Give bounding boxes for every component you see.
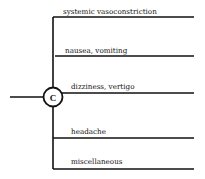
branch-systemic-vasoconstriction: systemic vasoconstriction: [53, 7, 194, 17]
branch-headache: headache: [53, 127, 194, 138]
branch-miscellaneous: miscellaneous: [53, 157, 194, 169]
branch-dizziness-vertigo: dizziness, vertigo: [60, 82, 194, 93]
branch-label: headache: [71, 127, 106, 136]
branch-label: dizziness, vertigo: [71, 82, 134, 91]
node-label: C: [50, 93, 57, 103]
node-c: C: [44, 88, 63, 107]
branch-nausea-vomiting: nausea, vomiting: [55, 46, 194, 56]
branch-label: miscellaneous: [71, 157, 123, 166]
branch-label: nausea, vomiting: [65, 46, 128, 55]
branch-label: systemic vasoconstriction: [63, 7, 157, 16]
fishbone-diagram: systemic vasoconstriction nausea, vomiti…: [0, 0, 205, 179]
